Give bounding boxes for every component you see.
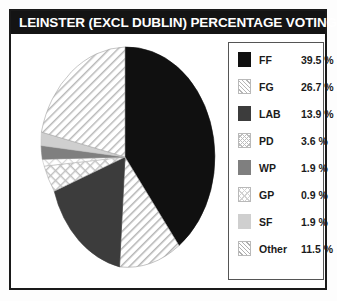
swatch-other-diagonal-hatch [238, 241, 251, 256]
legend-value-wp: 1.9 % [301, 162, 336, 174]
swatch-pd-cross-hatch [238, 133, 251, 148]
legend-item-gp[interactable]: GP 0.9 % [229, 181, 323, 208]
legend-value-sf: 1.9 % [301, 216, 336, 228]
pie-chart-svg [11, 36, 226, 288]
legend-label-gp: GP [251, 189, 301, 201]
legend-item-other[interactable]: Other 11.5 % [229, 235, 323, 262]
legend-value-other: 11.5 % [301, 243, 337, 255]
legend-value-ff: 39.5 % [301, 54, 337, 66]
legend-value-lab: 13.9 % [301, 108, 337, 120]
legend-item-pd[interactable]: PD 3.6 % [229, 127, 323, 154]
page-title: LEINSTER (EXCL DUBLIN) PERCENTAGE VOTING [11, 15, 337, 30]
swatch-lab-dark-gray [238, 106, 251, 121]
legend-label-lab: LAB [251, 108, 301, 120]
legend-item-wp[interactable]: WP 1.9 % [229, 154, 323, 181]
pie-chart [11, 36, 226, 288]
swatch-sf-light-gray [238, 214, 251, 229]
legend-item-sf[interactable]: SF 1.9 % [229, 208, 323, 235]
legend-item-ff[interactable]: FF 39.5 % [229, 46, 323, 73]
chart-screenshot: LEINSTER (EXCL DUBLIN) PERCENTAGE VOTING [0, 0, 337, 301]
legend-value-fg: 26.7 % [301, 81, 337, 93]
legend-label-ff: FF [251, 54, 301, 66]
swatch-ff-solid-black [238, 52, 251, 67]
legend-label-wp: WP [251, 162, 301, 174]
chart-legend: FF 39.5 % FG 26.7 % LAB 13.9 % PD 3.6 % … [228, 42, 324, 280]
swatch-fg-diagonal-hatch [238, 79, 251, 94]
swatch-wp-mid-gray [238, 160, 251, 175]
chart-title-bar: LEINSTER (EXCL DUBLIN) PERCENTAGE VOTING [11, 11, 325, 34]
legend-label-other: Other [251, 243, 301, 255]
legend-label-sf: SF [251, 216, 301, 228]
legend-label-pd: PD [251, 135, 301, 147]
swatch-gp-sparse-cross-hatch [238, 187, 251, 202]
legend-item-lab[interactable]: LAB 13.9 % [229, 100, 323, 127]
legend-item-fg[interactable]: FG 26.7 % [229, 73, 323, 100]
legend-label-fg: FG [251, 81, 301, 93]
legend-value-pd: 3.6 % [301, 135, 336, 147]
legend-value-gp: 0.9 % [301, 189, 336, 201]
